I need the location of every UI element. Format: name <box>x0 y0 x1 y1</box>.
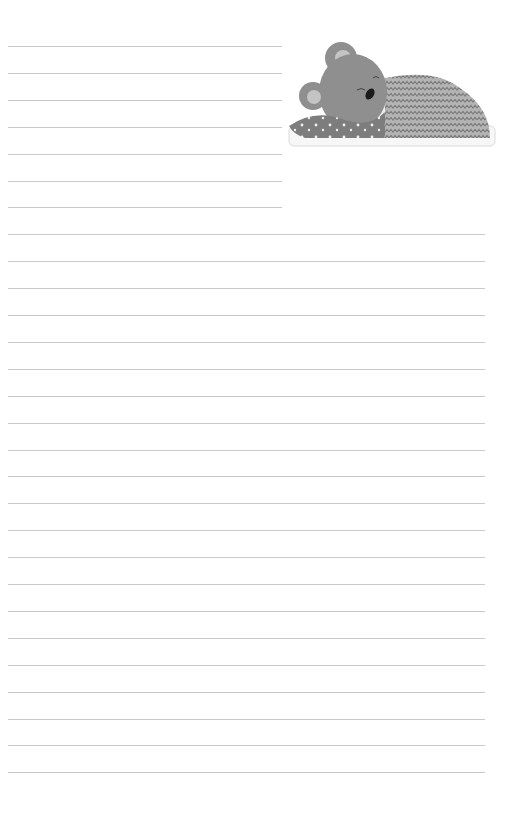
ruled-line <box>8 46 282 47</box>
ruled-line <box>8 315 485 316</box>
ruled-line <box>8 450 485 451</box>
ruled-line <box>8 584 485 585</box>
ruled-line <box>8 342 485 343</box>
ruled-line <box>8 611 485 612</box>
ruled-line <box>8 207 282 208</box>
ruled-line <box>8 369 485 370</box>
ruled-line <box>8 476 485 477</box>
ruled-line <box>8 261 485 262</box>
sleeping-bear-illustration <box>285 38 497 150</box>
ruled-line <box>8 719 485 720</box>
ruled-line <box>8 100 282 101</box>
ruled-line <box>8 423 485 424</box>
ruled-line <box>8 692 485 693</box>
ruled-line <box>8 396 485 397</box>
bear-icon <box>285 38 497 150</box>
ruled-line <box>8 154 282 155</box>
ruled-line <box>8 127 282 128</box>
ruled-line <box>8 234 485 235</box>
ruled-line <box>8 665 485 666</box>
ruled-line <box>8 772 485 773</box>
ruled-line <box>8 288 485 289</box>
notebook-page <box>0 0 519 818</box>
ruled-line <box>8 73 282 74</box>
ruled-line <box>8 503 485 504</box>
ruled-line <box>8 638 485 639</box>
ruled-line <box>8 181 282 182</box>
ruled-line <box>8 530 485 531</box>
ruled-line <box>8 557 485 558</box>
ruled-line <box>8 745 485 746</box>
